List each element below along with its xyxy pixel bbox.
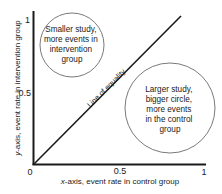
small-circle-line: Smaller study,	[45, 25, 96, 34]
small-circle-line: group	[62, 55, 83, 64]
line-of-equality-label: Line of equality	[85, 67, 127, 109]
diagram-canvas: Line of equality Smaller study, more eve…	[0, 0, 222, 194]
large-circle-line: bigger circle,	[146, 95, 192, 104]
large-circle-text: Larger study, bigger circle, more events…	[145, 85, 194, 134]
large-circle-line: more events	[146, 105, 191, 114]
x-tick-0: 0	[27, 167, 32, 177]
y-axis-label-text: -axis, event rate in intervention group	[13, 20, 22, 152]
y-axis-label: y-axis, event rate in intervention group	[13, 20, 22, 157]
x-tick-0-5: 0.5	[114, 166, 127, 176]
x-tick-1: 1	[201, 167, 206, 177]
y-tick-1: 1	[25, 15, 30, 25]
large-circle-line: in the control	[145, 115, 192, 124]
small-circle-text: Smaller study, more events in interventi…	[44, 25, 100, 64]
large-circle-line: group	[160, 125, 181, 134]
small-circle-line: more events in	[44, 35, 98, 44]
x-axis-label: x-axis, event rate in control group	[60, 177, 180, 186]
large-circle-line: Larger study,	[145, 85, 192, 94]
x-axis-label-text: -axis, event rate in control group	[65, 177, 180, 186]
small-circle-line: intervention	[50, 45, 93, 54]
